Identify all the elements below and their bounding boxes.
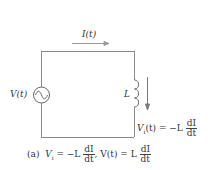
caption-fraction-2: dI dt [140, 145, 151, 164]
caption-prefix: (a) [27, 149, 39, 159]
caption-lhs2: V(t) = L [100, 149, 136, 159]
ac-source-icon [34, 87, 50, 103]
inductor-icon [135, 80, 139, 107]
caption-separator: , [95, 149, 98, 159]
fraction-denominator: dt [186, 129, 197, 138]
inductor-voltage-rest: (t) = −L [145, 123, 182, 133]
caption-eq1: = −L [54, 149, 81, 159]
circuit-wires [41, 51, 135, 138]
inductor-voltage-equation: Vi(t) = −L dI dt [137, 119, 197, 138]
current-arrow-icon [72, 42, 109, 46]
fraction-denominator: dt [83, 155, 94, 164]
fraction-denominator: dt [140, 155, 151, 164]
caption-fraction-1: dI dt [83, 145, 94, 164]
voltage-drop-arrow-icon [146, 77, 150, 110]
inductor-voltage-fraction: dI dt [186, 119, 197, 138]
figure-caption: (a) Vi = −L dI dt , V(t) = L dI dt [27, 145, 151, 164]
source-label: V(t) [10, 90, 27, 99]
inductor-label: L [124, 90, 130, 99]
current-label: I(t) [82, 30, 96, 39]
